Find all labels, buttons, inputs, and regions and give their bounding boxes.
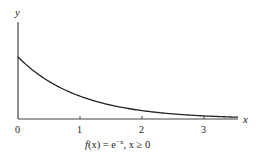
x-tick-label-2: 2 (139, 124, 144, 135)
function-curve (18, 57, 238, 117)
caption-x: (x) (88, 139, 101, 151)
chart-caption: f(x) = e−x, x ≥ 0 (85, 138, 150, 151)
y-axis-label: y (14, 6, 20, 18)
caption-eq: = e (100, 139, 116, 150)
chart: y x 0 1 2 3 f(x) = e−x, x ≥ 0 (0, 0, 261, 160)
x-tick-label-3: 3 (201, 124, 206, 135)
x-axis-label: x (242, 113, 248, 125)
caption-rest: , x ≥ 0 (123, 139, 150, 150)
x-tick-label-0: 0 (15, 124, 20, 135)
x-tick-label-1: 1 (77, 124, 82, 135)
